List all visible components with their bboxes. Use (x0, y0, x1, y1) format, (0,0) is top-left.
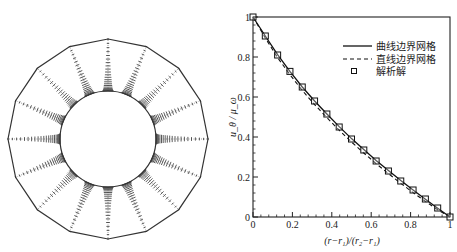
analytic-marker (336, 124, 342, 130)
y-tick-label: 0.8 (238, 52, 251, 63)
analytic-marker (373, 158, 379, 164)
x-tick-label: 0.4 (326, 219, 339, 230)
y-tick-label: 0.4 (238, 132, 251, 143)
velocity-profile-chart: 00.20.40.60.8100.20.40.60.81 曲线边界网格 直线边界… (0, 0, 457, 252)
analytic-marker (398, 178, 404, 184)
analytic-marker (324, 111, 330, 117)
analytic-marker (385, 168, 391, 174)
y-axis-label: u_θ / μ_ω (227, 97, 238, 137)
analytic-marker (422, 196, 428, 202)
x-tick-label: 0 (251, 219, 256, 230)
y-tick-label: 0.2 (238, 172, 251, 183)
x-tick-label: 0.8 (404, 219, 417, 230)
plot-legend: 曲线边界网格 直线边界网格 解析解 (343, 40, 436, 77)
analytic-marker (349, 136, 355, 142)
x-tick-label: 0.6 (365, 219, 378, 230)
legend-label-straight-mesh: 直线边界网格 (376, 53, 436, 65)
legend-label-curved-mesh: 曲线边界网格 (376, 40, 436, 52)
y-tick-label: 0 (245, 212, 250, 223)
analytic-marker (435, 205, 441, 211)
analytic-marker (299, 84, 305, 90)
analytic-marker (447, 214, 453, 220)
analytic-marker (275, 52, 281, 58)
legend-square-marker-icon (352, 69, 357, 74)
analytic-marker (287, 68, 293, 74)
y-tick-label: 1 (245, 12, 250, 23)
analytic-marker (312, 98, 318, 104)
x-tick-label: 1 (448, 219, 453, 230)
x-axis-label: (r−r₁)/(r₂−r₁) (324, 235, 380, 247)
legend-label-analytic: 解析解 (376, 65, 406, 77)
analytic-marker (250, 14, 256, 20)
x-tick-label: 0.2 (286, 219, 299, 230)
y-tick-label: 0.6 (238, 92, 251, 103)
analytic-marker (410, 187, 416, 193)
analytic-marker (262, 33, 268, 39)
analytic-marker (361, 147, 367, 153)
